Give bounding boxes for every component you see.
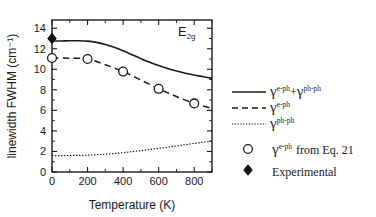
legend-label: γe-phfrom Eq. 21 bbox=[271, 141, 354, 157]
legend-label: γe-ph+γph-ph bbox=[269, 83, 321, 99]
mode-annotation: E2g bbox=[178, 24, 196, 41]
figure-container: 0200400600800 02468101214 Temperature (K… bbox=[0, 0, 376, 217]
data-point-open-circle bbox=[119, 67, 128, 76]
legend-superscript: e-ph bbox=[279, 142, 293, 151]
mode-annotation-base: E bbox=[178, 24, 187, 39]
legend: γe-ph+γph-phγe-phγph-phγe-phfrom Eq. 21E… bbox=[232, 83, 354, 179]
series-gamma_e-ph bbox=[52, 58, 212, 108]
plot-frame bbox=[52, 20, 212, 172]
legend-superscript-2: ph-ph bbox=[303, 84, 321, 93]
data-point-open-circle bbox=[48, 54, 57, 63]
data-curves bbox=[52, 41, 212, 156]
x-tick-labels: 0200400600800 bbox=[49, 175, 203, 187]
y-tick-label: 6 bbox=[40, 104, 46, 116]
data-point-open-circle bbox=[190, 99, 199, 108]
data-point-experimental-diamond bbox=[48, 33, 57, 43]
data-point-open-circle bbox=[83, 55, 92, 64]
legend-filled-diamond-icon bbox=[244, 165, 253, 175]
legend-label: Experimental bbox=[272, 165, 337, 179]
series-gamma_e-ph_plus_ph-ph bbox=[52, 41, 212, 79]
legend-label: γe-ph bbox=[269, 99, 290, 115]
legend-entry[interactable]: Experimental bbox=[244, 165, 338, 179]
x-tick-label: 600 bbox=[149, 175, 167, 187]
x-tick-label: 400 bbox=[114, 175, 132, 187]
legend-entry[interactable]: γe-ph+γph-ph bbox=[232, 83, 321, 99]
y-tick-label: 0 bbox=[40, 166, 46, 178]
y-tick-label: 2 bbox=[40, 145, 46, 157]
x-axis-title: Temperature (K) bbox=[89, 198, 176, 212]
y-tick-label: 14 bbox=[34, 22, 46, 34]
legend-superscript: e-ph bbox=[277, 100, 291, 109]
series-gamma_ph-ph bbox=[52, 141, 212, 155]
legend-tail-text: Experimental bbox=[272, 165, 337, 179]
y-tick-label: 12 bbox=[34, 43, 46, 55]
legend-open-circle-icon bbox=[244, 145, 253, 154]
x-tick-label: 800 bbox=[185, 175, 203, 187]
y-tick-label: 4 bbox=[40, 125, 46, 137]
legend-entry[interactable]: γe-ph bbox=[232, 99, 290, 115]
legend-tail-text: from Eq. 21 bbox=[296, 143, 354, 157]
legend-entry[interactable]: γph-ph bbox=[232, 115, 294, 131]
y-tick-label: 8 bbox=[40, 84, 46, 96]
legend-superscript: ph-ph bbox=[277, 116, 295, 125]
data-point-open-circle bbox=[154, 84, 163, 93]
x-tick-label: 200 bbox=[78, 175, 96, 187]
x-tick-label: 0 bbox=[49, 175, 55, 187]
y-tick-label: 10 bbox=[34, 63, 46, 75]
legend-superscript: e-ph bbox=[277, 84, 291, 93]
legend-entry[interactable]: γe-phfrom Eq. 21 bbox=[244, 141, 354, 157]
axis-ticks bbox=[52, 20, 212, 172]
legend-label: γph-ph bbox=[269, 115, 294, 131]
chart-svg: 0200400600800 02468101214 Temperature (K… bbox=[0, 0, 376, 217]
y-axis-title: linewidth FWHM (cm⁻¹) bbox=[5, 34, 19, 159]
mode-annotation-subscript: 2g bbox=[187, 32, 196, 41]
y-tick-labels: 02468101214 bbox=[34, 22, 46, 178]
